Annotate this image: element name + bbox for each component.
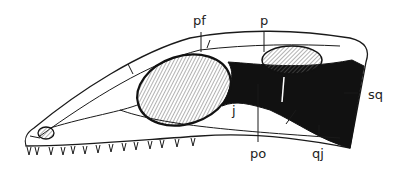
label-po: po — [250, 147, 266, 160]
label-p: p — [260, 14, 268, 27]
upper-temporal-fenestra — [262, 46, 322, 74]
skull-diagram: pf p sq j po qj — [0, 0, 414, 176]
label-pf: pf — [193, 14, 206, 27]
skull-drawing — [0, 0, 414, 176]
nostril — [38, 127, 54, 139]
label-j: j — [232, 104, 236, 117]
label-qj: qj — [312, 147, 324, 160]
label-sq: sq — [368, 88, 383, 101]
